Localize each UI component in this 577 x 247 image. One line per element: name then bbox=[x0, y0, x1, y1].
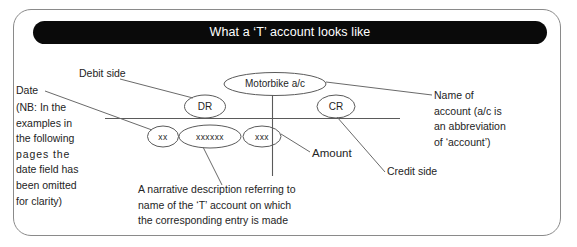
leader-debit-side bbox=[120, 79, 193, 98]
leader-amount bbox=[281, 134, 310, 152]
callout-narrative: A narrative description referring to nam… bbox=[138, 182, 296, 229]
name-of-account-line-4: of ‘account’) bbox=[434, 135, 506, 151]
debit-abbrev-label: DR bbox=[185, 101, 225, 112]
leader-narrative bbox=[203, 147, 222, 185]
narrative-line-3: the corresponding entry is made bbox=[138, 213, 296, 229]
credit-abbrev-label: CR bbox=[317, 101, 355, 112]
date-note-line-6: been omitted bbox=[16, 178, 78, 194]
date-note-line-1: (NB: In the bbox=[16, 100, 78, 116]
leader-credit-side bbox=[337, 117, 385, 172]
callout-credit-side: Credit side bbox=[387, 166, 437, 177]
callout-amount: Amount bbox=[312, 147, 352, 159]
name-of-account-line-2: account (a/c is bbox=[434, 104, 506, 120]
callout-date-title: Date bbox=[16, 85, 38, 96]
callout-date-note: (NB: In the examples in the following pa… bbox=[16, 100, 78, 209]
date-note-line-5: date field has bbox=[16, 162, 78, 178]
date-note-line-2: examples in bbox=[16, 116, 78, 132]
name-of-account-line-1: Name of bbox=[434, 88, 506, 104]
name-of-account-line-3: an abbreviation bbox=[434, 119, 506, 135]
date-note-line-4: pages the bbox=[16, 147, 78, 163]
date-note-line-7: for clarity) bbox=[16, 194, 78, 210]
entry-date-label: xx bbox=[148, 132, 178, 142]
figure-root: What a ‘T’ account looks like bbox=[0, 0, 577, 247]
narrative-line-2: name of the ‘T’ account on which bbox=[138, 198, 296, 214]
leader-name-of-account bbox=[326, 82, 432, 95]
entry-narrative-label: xxxxxx bbox=[179, 132, 241, 142]
narrative-line-1: A narrative description referring to bbox=[138, 182, 296, 198]
entry-amount-label: xxx bbox=[243, 132, 281, 142]
callout-debit-side: Debit side bbox=[79, 68, 126, 79]
account-name-label: Motorbike a/c bbox=[224, 78, 326, 89]
callout-name-of-account: Name of account (a/c is an abbreviation … bbox=[434, 88, 506, 150]
date-note-line-3: the following bbox=[16, 131, 78, 147]
